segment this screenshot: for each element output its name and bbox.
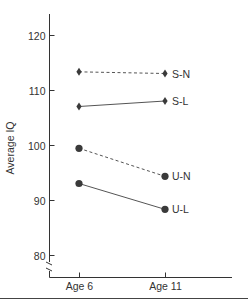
series-label: S-L: [172, 95, 189, 107]
diamond-marker-icon: [76, 103, 81, 111]
series-s-n: S-N: [76, 68, 190, 80]
series-layer: S-NS-LU-NU-L: [75, 68, 190, 216]
x-tick-label: Age 6: [66, 280, 94, 292]
diamond-marker-icon: [162, 97, 167, 105]
y-tick-label: 80: [34, 250, 46, 262]
series-u-l: U-L: [75, 180, 189, 215]
series-line: [79, 148, 165, 176]
circle-marker-icon: [75, 145, 82, 152]
series-s-l: S-L: [76, 95, 188, 111]
y-tick-label: 120: [28, 30, 46, 42]
circle-marker-icon: [75, 180, 82, 187]
series-label: U-L: [172, 203, 189, 215]
x-tick-label: Age 11: [149, 280, 182, 292]
series-line: [79, 101, 165, 107]
y-tick-label: 100: [28, 140, 46, 152]
diamond-marker-icon: [162, 70, 167, 78]
line-chart: 8090100110120 Age 6Age 11 S-NS-LU-NU-L A…: [0, 0, 248, 304]
circle-marker-icon: [161, 173, 168, 180]
series-u-n: U-N: [75, 145, 190, 183]
series-label: S-N: [172, 68, 190, 80]
y-axis-title: Average IQ: [4, 122, 16, 175]
y-tick-label: 110: [29, 85, 46, 97]
series-label: U-N: [172, 170, 191, 182]
y-axis: 8090100110120: [28, 14, 55, 278]
series-line: [79, 72, 165, 74]
diamond-marker-icon: [76, 68, 81, 76]
series-line: [79, 184, 165, 210]
x-axis: Age 6Age 11: [50, 273, 233, 293]
y-tick-label: 90: [34, 195, 46, 207]
axis-break-icon: [46, 262, 52, 271]
circle-marker-icon: [161, 206, 168, 213]
